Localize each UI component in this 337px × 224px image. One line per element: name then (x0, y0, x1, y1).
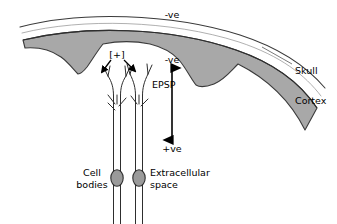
neuron-left (104, 66, 130, 224)
figure-canvas: -ve -ve +ve [+] EPSP Skull Cortex Cell b… (0, 0, 337, 224)
excitation-arrows (102, 60, 135, 72)
dipole-positive-label: +ve (162, 143, 182, 154)
cell-body-right (133, 170, 145, 186)
neuron-right (127, 64, 152, 224)
extracellular-label-line2: space (150, 179, 178, 190)
dipole-negative-label: -ve (165, 54, 180, 65)
cortex-label: Cortex (295, 95, 327, 106)
diagram-svg: -ve -ve +ve [+] EPSP Skull Cortex Cell b… (0, 0, 337, 224)
cell-bodies-label-line1: Cell (83, 167, 101, 178)
scalp-negative-label: -ve (165, 9, 180, 20)
excitation-label: [+] (109, 49, 124, 60)
cell-bodies-label-line2: bodies (76, 179, 107, 190)
skull-label: Skull (295, 65, 318, 76)
cell-body-left (111, 170, 123, 186)
epsp-label: EPSP (152, 79, 176, 90)
skull-leader-line (262, 47, 292, 64)
extracellular-label-line1: Extracellular (150, 167, 210, 178)
